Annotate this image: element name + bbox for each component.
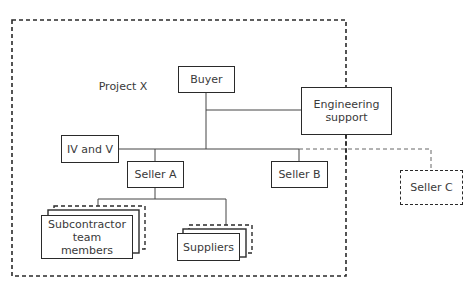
node-subcontractor-team-members[interactable]: Subcontractor team members: [41, 215, 133, 259]
node-seller-b[interactable]: Seller B: [271, 161, 328, 188]
project-x-label: Project X: [88, 78, 158, 94]
node-buyer[interactable]: Buyer: [178, 66, 235, 93]
node-seller-c[interactable]: Seller C: [400, 170, 463, 205]
node-seller-a[interactable]: Seller A: [127, 161, 184, 188]
node-suppliers[interactable]: Suppliers: [177, 233, 240, 261]
node-engineering-support[interactable]: Engineering support: [301, 87, 392, 135]
node-iv-and-v[interactable]: IV and V: [61, 135, 119, 163]
